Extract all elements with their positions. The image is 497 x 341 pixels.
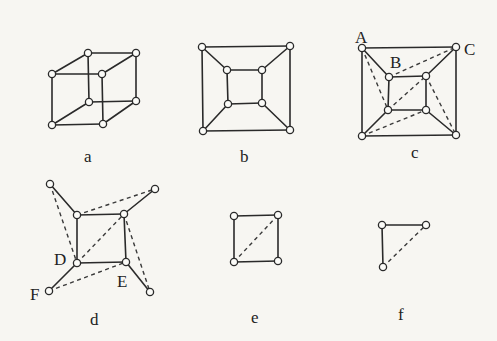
dashed-edge — [388, 76, 426, 110]
vertex-label-F: F — [30, 285, 39, 304]
vertex-node — [452, 43, 459, 50]
vertex-node — [452, 131, 459, 138]
dashed-edge — [124, 214, 150, 292]
solid-edge — [388, 77, 389, 110]
panel-f: f — [378, 221, 429, 324]
vertex-node — [224, 100, 231, 107]
solid-edge — [362, 135, 456, 136]
vertex-node — [378, 221, 385, 228]
vertex-node — [99, 120, 106, 127]
panel-caption-f: f — [398, 305, 404, 324]
solid-edge — [227, 70, 228, 104]
vertex-node — [286, 126, 293, 133]
vertex-node — [46, 180, 53, 187]
panel-b: b — [198, 42, 293, 166]
panel-a: a — [48, 49, 139, 166]
vertex-node — [379, 263, 386, 270]
panel-caption-d: d — [90, 310, 99, 329]
solid-edge — [362, 47, 456, 48]
solid-edge — [203, 104, 228, 131]
solid-edge — [52, 102, 89, 125]
panel-caption-c: c — [411, 143, 419, 162]
solid-edge — [77, 262, 126, 263]
vertex-node — [286, 42, 293, 49]
dashed-edge — [77, 189, 155, 215]
vertex-node — [230, 212, 237, 219]
solid-edge — [50, 184, 77, 215]
dashed-edge — [383, 225, 426, 267]
dashed-edge — [426, 76, 456, 135]
solid-edge — [103, 101, 136, 124]
vertex-node — [85, 98, 92, 105]
vertex-node — [230, 258, 237, 265]
panel-d: DEFd — [30, 180, 159, 329]
solid-edge — [262, 103, 290, 130]
solid-edge — [52, 53, 88, 74]
solid-edge — [389, 76, 426, 77]
solid-edge — [262, 46, 290, 70]
panel-caption-b: b — [240, 147, 249, 166]
solid-edge — [77, 214, 124, 215]
solid-edge — [89, 101, 136, 102]
vertex-label-B: B — [390, 53, 401, 72]
vertex-label-D: D — [54, 250, 66, 269]
dashed-edge — [234, 215, 278, 262]
dashed-edge — [77, 214, 124, 263]
vertex-node — [132, 97, 139, 104]
vertex-node — [422, 106, 429, 113]
vertex-node — [146, 288, 153, 295]
vertex-node — [258, 99, 265, 106]
vertex-node — [48, 70, 55, 77]
vertex-node — [73, 259, 80, 266]
vertex-node — [73, 211, 80, 218]
vertex-label-E: E — [117, 272, 127, 291]
solid-edge — [362, 110, 388, 136]
solid-edge — [202, 46, 290, 47]
vertex-node — [151, 185, 158, 192]
vertex-label-A: A — [355, 28, 368, 47]
solid-edge — [426, 47, 456, 76]
vertex-label-C: C — [464, 40, 475, 59]
vertex-node — [122, 258, 129, 265]
vertex-node — [48, 121, 55, 128]
graph-figure: a b ABCc DEFd e f — [0, 0, 497, 341]
solid-edge — [234, 261, 278, 262]
vertex-node — [45, 287, 52, 294]
solid-edge — [234, 215, 278, 216]
vertex-node — [223, 66, 230, 73]
solid-edge — [202, 47, 227, 70]
solid-edge — [102, 74, 103, 124]
solid-edge — [228, 103, 262, 104]
vertex-node — [98, 70, 105, 77]
panel-caption-a: a — [84, 147, 92, 166]
vertex-node — [384, 106, 391, 113]
vertex-node — [274, 257, 281, 264]
solid-edge — [124, 214, 126, 262]
panel-caption-e: e — [251, 308, 259, 327]
vertex-node — [358, 132, 365, 139]
solid-edge — [426, 110, 456, 135]
vertex-node — [385, 73, 392, 80]
vertex-node — [258, 66, 265, 73]
vertex-node — [422, 221, 429, 228]
vertex-node — [84, 49, 91, 56]
vertex-node — [132, 49, 139, 56]
vertex-node — [199, 127, 206, 134]
solid-edge — [382, 225, 383, 267]
solid-edge — [124, 189, 155, 214]
vertex-node — [274, 211, 281, 218]
vertex-node — [120, 210, 127, 217]
solid-edge — [126, 262, 150, 292]
vertex-node — [198, 43, 205, 50]
dashed-edge — [362, 110, 426, 136]
figure-canvas: a b ABCc DEFd e f — [0, 0, 497, 341]
solid-edge — [202, 47, 203, 131]
solid-edge — [102, 53, 136, 74]
vertex-node — [422, 72, 429, 79]
panel-c: ABCc — [355, 28, 475, 162]
solid-edge — [203, 130, 290, 131]
panel-e: e — [230, 211, 281, 327]
solid-edge — [362, 48, 389, 77]
dashed-edge — [362, 48, 388, 110]
solid-edge — [52, 124, 103, 125]
